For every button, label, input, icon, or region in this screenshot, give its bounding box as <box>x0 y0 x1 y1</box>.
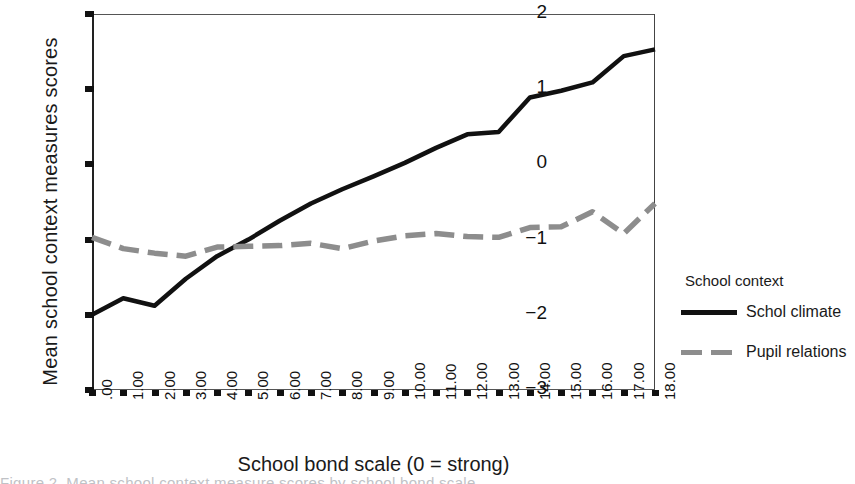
x-tick <box>120 390 127 396</box>
x-tick <box>652 390 659 396</box>
legend-item-schol-climate: Schol climate <box>681 303 851 321</box>
series-line-pupil-relations <box>92 204 655 257</box>
plot-area: 210−1−2−3 .001.002.003.004.005.006.007.0… <box>92 14 655 390</box>
x-tick <box>589 390 596 396</box>
x-tick <box>183 390 190 396</box>
x-tick <box>214 390 221 396</box>
series-lines <box>92 14 655 390</box>
x-tick <box>308 390 315 396</box>
x-tick <box>433 390 440 396</box>
x-tick <box>152 390 159 396</box>
x-tick <box>558 390 565 396</box>
figure-caption: Figure 2. Mean school context measure sc… <box>0 474 855 484</box>
x-tick <box>277 390 284 396</box>
x-tick <box>339 390 346 396</box>
legend-label-pupil-relations: Pupil relations <box>746 343 847 361</box>
x-tick <box>245 390 252 396</box>
x-tick <box>527 390 534 396</box>
legend-label-schol-climate: Schol climate <box>746 303 841 321</box>
x-tick <box>464 390 471 396</box>
series-line-schol-climate <box>92 49 655 314</box>
legend-title: School context <box>685 272 851 289</box>
legend-swatch-dashed <box>681 350 737 355</box>
legend-item-pupil-relations: Pupil relations <box>681 343 851 361</box>
x-tick <box>402 390 409 396</box>
legend: School context Schol climate Pupil relat… <box>681 272 851 383</box>
x-tick <box>89 390 96 396</box>
x-tick <box>496 390 503 396</box>
x-tick-label: 18.00 <box>661 362 678 400</box>
x-tick <box>621 390 628 396</box>
x-axis-title: School bond scale (0 = strong) <box>92 453 655 476</box>
x-tick <box>371 390 378 396</box>
legend-swatch-solid <box>681 310 737 315</box>
y-axis-title: Mean school context measures scores <box>39 12 62 412</box>
chart-figure: Mean school context measures scores 210−… <box>0 0 855 484</box>
